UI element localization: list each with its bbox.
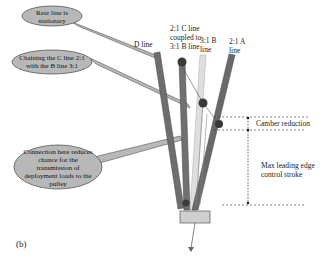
rear-line-callout-text: Rear line is stationary [28,9,76,25]
a-line-pulley [215,120,223,128]
chaining-callout-tail [90,58,190,108]
camber-reduction-label: Camber reduction [256,119,310,128]
leading-edge-stroke-label: Max leading edge control stroke [261,161,321,179]
riser-diagram [0,0,323,264]
chaining-callout-text: Chaining the C line 2:1 with the B line … [17,54,87,70]
riser-base [180,211,210,223]
a-line-label: 2:1 A line [229,37,251,55]
b-line-pulley [199,99,208,108]
d-line-label: D line [134,40,153,49]
arrow-down-icon [188,247,194,252]
base-pulley [183,200,190,207]
c-line-pulley [178,58,187,67]
c-line-label: 2:1 C line coupled to 3:1 B line [170,24,202,51]
b-line-label: 3:1 B line [200,36,220,54]
connection-callout-text: Connection here reduces chance for the t… [22,148,94,188]
panel-label: (b) [16,240,27,249]
control-line [191,223,195,248]
